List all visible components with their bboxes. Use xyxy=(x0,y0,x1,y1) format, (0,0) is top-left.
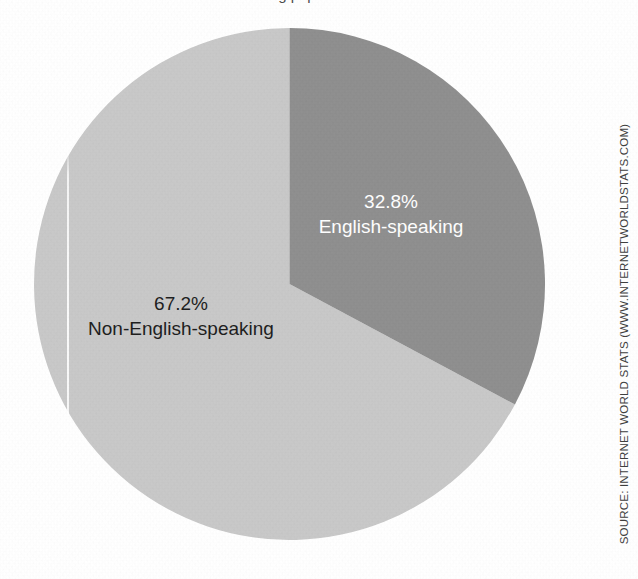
cut-off-heading-text: …g population… xyxy=(0,0,638,3)
pie-label-english-speaking: 32.8% English-speaking xyxy=(285,190,497,239)
pie-label-english-name: English-speaking xyxy=(285,215,497,240)
pie-chart xyxy=(34,28,545,540)
pie-chart-figure: …g population… 32.8% English-speaking 67… xyxy=(0,0,638,579)
pie-label-non-english-speaking: 67.2% Non-English-speaking xyxy=(62,292,300,341)
cut-off-heading: …g population… xyxy=(0,0,638,9)
source-credit: SOURCE: INTERNET WORLD STATS (WWW.INTERN… xyxy=(614,99,634,569)
pie-label-english-percent: 32.8% xyxy=(285,190,497,215)
pie-chart-svg xyxy=(34,28,545,540)
source-credit-text: SOURCE: INTERNET WORLD STATS (WWW.INTERN… xyxy=(618,124,630,545)
pie-label-non-english-percent: 67.2% xyxy=(62,292,300,317)
pie-label-non-english-name: Non-English-speaking xyxy=(62,317,300,342)
